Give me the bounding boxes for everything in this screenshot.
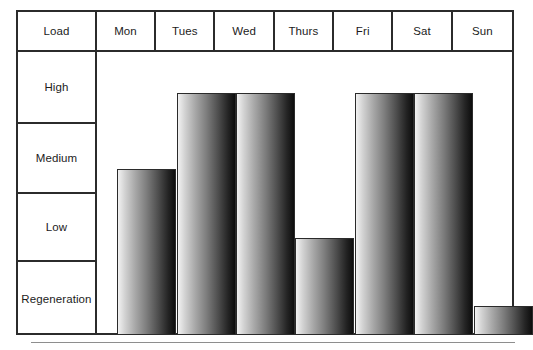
load-row-low: Low [18,194,95,262]
bar-mon [117,169,176,335]
header-cell-sat: Sat [393,12,452,50]
bar-tues [177,93,236,335]
load-chart-table: Load Mon Tues Wed Thurs Fri Sat Sun High… [16,10,514,335]
header-cell-thurs: Thurs [275,12,334,50]
load-row-regeneration: Regeneration [18,262,95,335]
header-cell-load: Load [18,12,97,50]
footer-divider-rule [31,342,515,343]
table-header-row: Load Mon Tues Wed Thurs Fri Sat Sun [18,12,512,50]
load-row-high: High [18,52,95,124]
load-label-column: High Medium Low Regeneration [18,52,97,335]
header-cell-sun: Sun [453,12,512,50]
bar-fri [355,93,414,335]
load-row-medium: Medium [18,124,95,194]
header-cell-fri: Fri [334,12,393,50]
bar-sun [474,306,533,335]
bar-wed [236,93,295,335]
bars-plot-area [99,52,514,335]
header-cell-tues: Tues [156,12,215,50]
bar-sat [414,93,473,335]
bar-thurs [295,238,354,335]
header-cell-wed: Wed [215,12,274,50]
header-cell-mon: Mon [97,12,156,50]
